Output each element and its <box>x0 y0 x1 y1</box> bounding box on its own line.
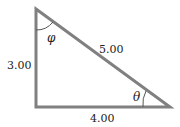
angle-label-phi: φ <box>47 32 55 44</box>
angle-label-theta: θ <box>133 91 140 103</box>
side-label-horizontal: 4.00 <box>90 113 115 124</box>
angle-arc-phi <box>36 22 53 30</box>
side-label-vertical: 3.00 <box>7 60 32 71</box>
right-triangle <box>36 9 170 107</box>
angle-arc-theta <box>143 91 146 107</box>
side-label-hypotenuse: 5.00 <box>99 44 124 55</box>
